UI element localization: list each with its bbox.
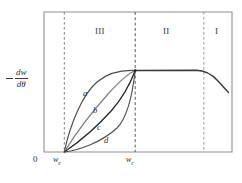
fraction-denominator: dθ	[16, 80, 27, 89]
minus-sign-icon: −	[6, 78, 13, 79]
origin-label: 0	[33, 154, 38, 164]
constant-rate-curve	[135, 70, 228, 92]
x-tick-we-subscript: e	[58, 160, 60, 166]
drying-rate-figure: − dw dθ 0 we wc III II I a b c d	[0, 0, 242, 183]
region-label-I: I	[215, 26, 218, 36]
plateau-and-drop-path	[135, 70, 228, 92]
x-tick-label-we: we	[53, 155, 61, 166]
region-label-III: III	[95, 26, 105, 36]
region-label-II: II	[163, 26, 170, 36]
falling-rate-curves	[64, 70, 135, 152]
derivative-fraction: dw dθ	[15, 68, 28, 90]
curve-d-path	[64, 71, 135, 153]
x-tick-wc-subscript: c	[131, 160, 133, 166]
curve-label-a: a	[83, 88, 87, 98]
curve-label-d: d	[104, 135, 108, 145]
x-tick-label-wc: wc	[126, 155, 134, 166]
fraction-numerator: dw	[15, 68, 28, 77]
curve-label-b: b	[93, 105, 97, 115]
y-axis-label: − dw dθ	[6, 68, 28, 90]
convergence-point	[134, 69, 137, 72]
curve-label-c: c	[97, 122, 101, 132]
